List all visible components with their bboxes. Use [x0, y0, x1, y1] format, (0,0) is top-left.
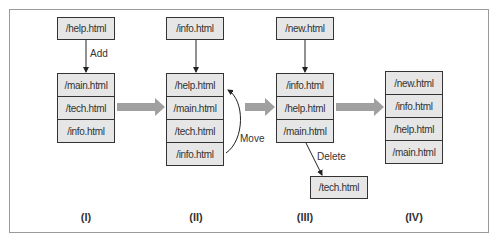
step-label: (II): [176, 211, 216, 223]
add-label: Add: [90, 48, 108, 59]
move-arrow-icon: [226, 90, 241, 153]
stack-item: /main.html: [277, 120, 333, 142]
delete-label: Delete: [317, 151, 346, 162]
step-label: (I): [66, 211, 106, 223]
stack-item: /help.html: [386, 118, 442, 141]
incoming-page-box: /new.html: [276, 17, 334, 40]
page-stack: /help.html /main.html /tech.html /info.h…: [166, 73, 224, 166]
step-label: (IV): [394, 211, 434, 223]
stack-item: /info.html: [386, 95, 442, 118]
stack-item: /new.html: [386, 72, 442, 95]
incoming-page-box: /info.html: [166, 17, 224, 40]
stack-item: /help.html: [277, 97, 333, 120]
step-label: (III): [285, 211, 325, 223]
flow-arrows: [117, 98, 384, 116]
stack-item: /tech.html: [167, 120, 223, 143]
stack-item: /main.html: [167, 97, 223, 120]
page-stack: /main.html /tech.html /info.html: [57, 73, 115, 143]
stack-item: /help.html: [167, 74, 223, 97]
move-label: Move: [240, 133, 264, 144]
stack-item: /info.html: [277, 74, 333, 97]
stack-item: /main.html: [58, 74, 114, 97]
page-stack: /new.html /info.html /help.html /main.ht…: [385, 71, 443, 164]
stack-item: /info.html: [167, 143, 223, 165]
incoming-page-box: /help.html: [57, 17, 115, 40]
stack-item: /info.html: [58, 120, 114, 142]
removed-page-box: /tech.html: [310, 176, 368, 199]
stack-item: /tech.html: [58, 97, 114, 120]
stack-item: /main.html: [386, 141, 442, 163]
page-stack: /info.html /help.html /main.html: [276, 73, 334, 143]
